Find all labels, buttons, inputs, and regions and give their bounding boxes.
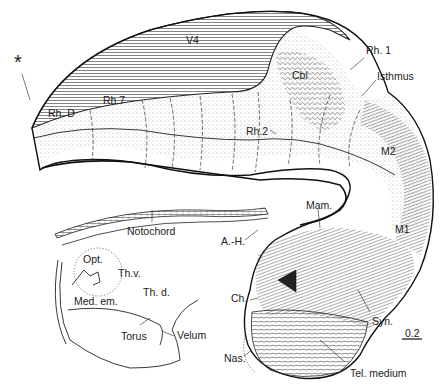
label-rh1: Rh. 1 — [366, 45, 391, 56]
label-syn: Syn. — [372, 316, 393, 327]
label-notochord: Notochord — [127, 226, 175, 237]
label-mam: Mam. — [306, 200, 332, 211]
label-thd: Th. d. — [143, 287, 170, 298]
label-tel-medium: Tel. medium — [350, 368, 407, 379]
label-velum: Velum — [177, 330, 206, 341]
label-opt: Opt. — [83, 254, 103, 265]
label-nas: Nas. — [224, 353, 246, 364]
label-thv: Th.v. — [118, 268, 141, 279]
label-rh-d: Rh. D — [48, 108, 75, 119]
label-v4: V4 — [186, 35, 199, 46]
asterisk-marker: * — [14, 52, 22, 72]
label-rh2: Rh.2 — [246, 126, 268, 137]
diencephalon-inset — [55, 248, 198, 368]
label-cbl: Cbl — [292, 70, 308, 81]
brain-diagram: * V4 Rh. 1 Cbl Isthmus Rh. D Rh.7 Rh.2 M… — [0, 0, 441, 384]
label-m2: M2 — [381, 146, 396, 157]
label-isthmus: Isthmus — [377, 71, 414, 82]
label-rh7: Rh.7 — [103, 95, 125, 106]
label-ch: Ch. — [231, 293, 247, 304]
label-m1: M1 — [395, 224, 410, 235]
label-ah: A.-H. — [221, 236, 245, 247]
label-med-em: Med. em. — [74, 296, 118, 307]
forebrain — [244, 228, 414, 377]
scale-bar-label: 0.2 — [405, 328, 420, 339]
label-torus: Torus — [121, 331, 147, 342]
